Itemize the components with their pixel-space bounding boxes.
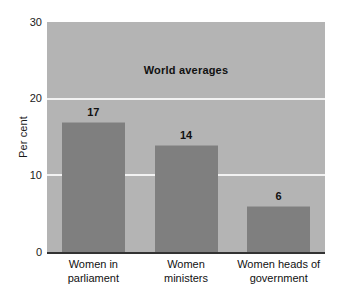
x-axis-category-label-line: Women — [140, 257, 233, 271]
y-axis-tick-labels: 0102030 — [16, 0, 42, 291]
y-axis-tick-label: 10 — [16, 170, 42, 181]
x-axis-category-label-line: ministers — [140, 271, 233, 285]
x-axis-category-label: Women heads ofgovernment — [232, 257, 325, 289]
plot-area: 17146 World averages — [47, 22, 325, 252]
y-axis-tick-label: 0 — [16, 247, 42, 258]
bar-value-label: 17 — [62, 106, 125, 118]
x-axis-category-label-line: government — [232, 271, 325, 285]
bar-value-label: 14 — [155, 129, 218, 141]
bar — [155, 145, 218, 252]
x-axis-category-label-line: parliament — [47, 271, 140, 285]
bar — [62, 122, 125, 252]
y-axis-tick-label: 30 — [16, 17, 42, 28]
x-axis-category-label-line: Women heads of — [232, 257, 325, 271]
x-axis-line — [47, 252, 325, 254]
gridline — [47, 98, 325, 100]
x-axis-category-label: Womenministers — [140, 257, 233, 289]
bar — [247, 206, 310, 252]
bar-chart: Per cent 0102030 17146 World averages Wo… — [0, 0, 344, 291]
x-axis-category-labels: Women inparliamentWomenministersWomen he… — [47, 257, 325, 289]
bar-value-label: 6 — [247, 190, 310, 202]
chart-annotation: World averages — [47, 64, 325, 76]
y-axis-tick-label: 20 — [16, 93, 42, 104]
x-axis-category-label-line: Women in — [47, 257, 140, 271]
x-axis-category-label: Women inparliament — [47, 257, 140, 289]
